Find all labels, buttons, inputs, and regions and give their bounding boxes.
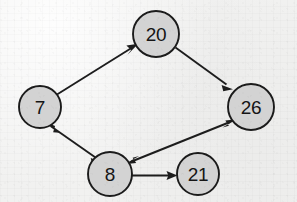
edge-7-to-20[interactable] [57,44,138,95]
node-8-label: 8 [105,164,115,185]
arrowhead-into-26-from-20 [217,85,233,92]
node-21-label: 21 [188,164,209,185]
edge-7-to-20-line [57,48,132,95]
node-20-label: 20 [146,24,167,45]
graph-svg: 7 20 26 8 21 [0,0,297,202]
node-7-label: 7 [35,97,45,118]
node-layer: 7 20 26 8 21 [19,11,274,196]
edge-8-to-21[interactable] [132,171,178,180]
edge-8-to-26-bidirectional[interactable] [125,119,238,164]
edge-8-to-26-line [132,122,231,162]
node-7[interactable]: 7 [19,86,61,128]
node-8[interactable]: 8 [88,152,132,196]
edge-20-to-26[interactable] [176,48,234,93]
node-26-label: 26 [241,97,262,118]
node-21[interactable]: 21 [177,153,219,195]
edge-20-to-26-line [176,48,227,85]
node-20[interactable]: 20 [133,11,179,57]
edge-7-to-8-line [51,126,96,158]
graph-canvas: 7 20 26 8 21 [0,0,297,202]
node-26[interactable]: 26 [228,84,274,130]
